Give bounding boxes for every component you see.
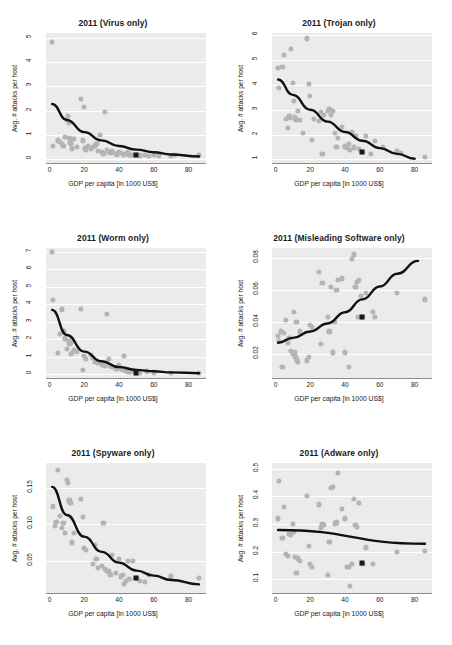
y-axis-label-text: Avg. # attacks per host [11,65,18,132]
y-tick-label: 4 [18,57,40,64]
x-tick-label: 0 [274,596,278,603]
panel-title: 2011 (Misleading Software only) [226,233,452,243]
y-tick-label: 2 [18,106,40,113]
plot-area [46,33,206,163]
y-tick-text: 0.3 [251,518,258,527]
y-tick-label: 7 [18,247,40,254]
y-tick-text: 1 [252,156,259,160]
highlight-marker [360,561,365,566]
plot-area [272,33,432,163]
panel-title: 2011 (Trojan only) [226,18,452,28]
highlight-marker [134,371,139,376]
x-axis-line [46,593,206,594]
plot-area [46,248,206,378]
trend-curve [46,33,206,163]
y-tick-label: 0 [18,154,40,161]
y-axis-label: Avg. # attacks per host [234,248,246,378]
y-tick-text: 3 [26,319,33,323]
x-tick-label: 40 [341,381,348,388]
chart-panel-2: 2011 (Trojan only)123456020406080GDP per… [226,0,452,215]
y-tick-text: 2 [252,131,259,135]
x-axis-label: GDP per capita [in 1000 US$] [0,395,226,402]
chart-panel-4: 2011 (Misleading Software only)0.020.040… [226,215,452,430]
x-axis-line [46,163,206,164]
y-tick-text: 6 [252,32,259,36]
y-tick-label: 2 [244,130,266,137]
x-tick-label: 0 [48,596,52,603]
y-tick-label: 0.06 [244,285,266,292]
x-axis-line [272,378,432,379]
highlight-marker [134,575,139,580]
x-tick-label: 80 [185,166,192,173]
y-tick-label: 0.08 [244,253,266,260]
x-axis-line [46,378,206,379]
trend-curve [46,248,206,378]
highlight-marker [360,315,365,320]
y-tick-label: 3 [18,317,40,324]
x-tick-label: 60 [376,596,383,603]
figure-panel-grid: 2011 (Virus only)012345020406080GDP per … [0,0,452,645]
x-tick-label: 20 [81,381,88,388]
y-tick-text: 0.1 [251,573,258,582]
y-tick-text: 0.05 [25,553,32,565]
plot-area [46,463,206,593]
y-tick-text: 7 [26,248,33,252]
y-tick-text: 4 [26,301,33,305]
y-tick-label: 0.15 [18,483,40,490]
y-tick-text: 0.5 [251,463,258,472]
chart-panel-3: 2011 (Worm only)01234567020406080GDP per… [0,215,226,430]
y-tick-text: 0.2 [251,546,258,555]
y-tick-text: 4 [252,82,259,86]
y-tick-label: 1 [244,154,266,161]
trend-curve [272,248,432,378]
y-axis-label: Avg. # attacks per host [234,463,246,593]
y-tick-text: 0.06 [251,282,258,294]
x-tick-label: 20 [307,381,314,388]
y-tick-label: 0.05 [18,556,40,563]
y-tick-label: 5 [18,33,40,40]
y-tick-text: 5 [26,283,33,287]
x-tick-label: 0 [274,381,278,388]
y-axis-label-text: Avg. # attacks per host [237,495,244,562]
x-tick-label: 40 [115,166,122,173]
panel-title: 2011 (Virus only) [0,18,226,28]
x-axis-label: GDP per capita [in 1000 US$] [226,610,452,617]
y-axis-label-text: Avg. # attacks per host [11,280,18,347]
y-tick-text: 5 [252,57,259,61]
y-tick-label: 0.3 [244,519,266,526]
plot-area [272,463,432,593]
y-tick-text: 0 [26,371,33,375]
y-tick-label: 5 [18,282,40,289]
chart-panel-1: 2011 (Virus only)012345020406080GDP per … [0,0,226,215]
x-axis-label: GDP per capita [in 1000 US$] [0,610,226,617]
x-tick-label: 60 [150,596,157,603]
y-tick-label: 2 [18,334,40,341]
x-tick-label: 20 [307,166,314,173]
y-tick-label: 3 [18,81,40,88]
plot-area [272,248,432,378]
x-tick-label: 20 [307,596,314,603]
y-tick-label: 1 [18,352,40,359]
y-tick-text: 0.08 [251,250,258,262]
panel-title: 2011 (Adware only) [226,448,452,458]
y-axis-label: Avg. # attacks per host [8,33,20,163]
y-tick-label: 0.10 [18,519,40,526]
y-axis-label: Avg. # attacks per host [8,463,20,593]
y-tick-label: 4 [244,80,266,87]
y-tick-label: 0.02 [244,349,266,356]
x-axis-label: GDP per capita [in 1000 US$] [0,180,226,187]
panel-title: 2011 (Worm only) [0,233,226,243]
y-tick-label: 3 [244,105,266,112]
x-tick-label: 40 [341,166,348,173]
x-tick-label: 60 [150,166,157,173]
trend-curve [272,33,432,163]
highlight-marker [360,149,365,154]
y-tick-text: 3 [26,83,33,87]
x-tick-label: 40 [115,381,122,388]
x-tick-label: 60 [150,381,157,388]
y-tick-text: 0.04 [251,314,258,326]
y-tick-label: 1 [18,130,40,137]
y-tick-label: 0.2 [244,547,266,554]
y-tick-label: 0.4 [244,491,266,498]
y-tick-label: 6 [244,30,266,37]
